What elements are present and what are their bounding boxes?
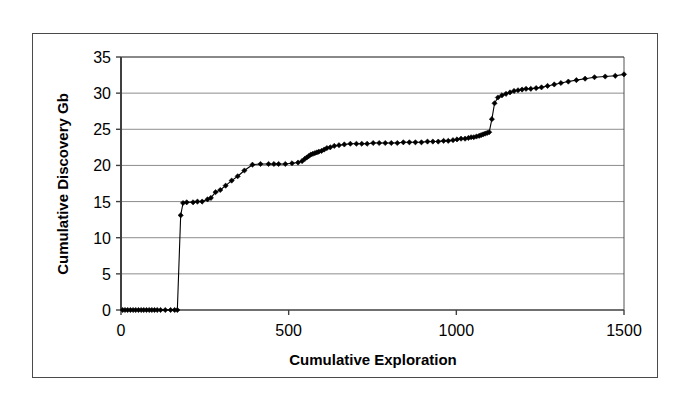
data-point-marker xyxy=(528,86,533,91)
data-point-marker xyxy=(545,83,550,88)
data-point-marker xyxy=(377,140,382,145)
data-point-marker xyxy=(574,78,579,83)
data-point-marker xyxy=(436,139,441,144)
data-point-marker xyxy=(395,140,400,145)
data-point-marker xyxy=(534,85,539,90)
figure-root: 05101520253035 050010001500 Cumulative E… xyxy=(0,0,683,398)
y-axis-tick-labels: 05101520253035 xyxy=(93,49,111,319)
data-point-marker xyxy=(200,199,205,204)
series-line xyxy=(123,74,624,310)
y-tick-label: 35 xyxy=(93,49,111,66)
x-tick-label: 1500 xyxy=(606,322,642,339)
data-point-marker xyxy=(342,142,347,147)
data-point-marker xyxy=(359,141,364,146)
data-point-marker xyxy=(613,73,618,78)
data-point-marker xyxy=(492,101,497,106)
data-point-marker xyxy=(621,72,626,77)
data-point-marker xyxy=(425,139,430,144)
data-point-marker xyxy=(371,140,376,145)
data-point-marker xyxy=(348,141,353,146)
data-point-marker xyxy=(430,139,435,144)
x-axis-tick-labels: 050010001500 xyxy=(117,322,642,339)
x-tick-label: 0 xyxy=(117,322,126,339)
data-point-marker xyxy=(401,140,406,145)
data-point-marker xyxy=(419,140,424,145)
y-tick-label: 15 xyxy=(93,194,111,211)
x-tick-label: 1000 xyxy=(439,322,475,339)
y-tick-label: 5 xyxy=(102,266,111,283)
plot-border xyxy=(121,57,624,310)
data-point-marker xyxy=(603,74,608,79)
data-point-marker xyxy=(539,85,544,90)
gridlines xyxy=(121,57,624,274)
x-tick-label: 500 xyxy=(275,322,302,339)
data-series xyxy=(120,72,627,313)
data-point-marker xyxy=(389,140,394,145)
x-axis-title: Cumulative Exploration xyxy=(289,351,457,368)
data-point-marker xyxy=(365,141,370,146)
y-tick-label: 20 xyxy=(93,157,111,174)
data-point-marker xyxy=(566,79,571,84)
y-axis-title: Cumulative Discovery Gb xyxy=(54,93,71,275)
chart-canvas: 05101520253035 050010001500 Cumulative E… xyxy=(0,0,683,398)
data-point-marker xyxy=(413,140,418,145)
data-point-marker xyxy=(336,143,341,148)
data-point-marker xyxy=(178,213,183,218)
data-point-marker xyxy=(558,80,563,85)
data-point-marker xyxy=(446,138,451,143)
data-point-marker xyxy=(489,117,494,122)
data-point-marker xyxy=(190,200,195,205)
y-tick-label: 30 xyxy=(93,85,111,102)
data-point-marker xyxy=(592,75,597,80)
data-point-marker xyxy=(407,140,412,145)
data-point-marker xyxy=(163,307,168,312)
data-point-marker xyxy=(383,140,388,145)
y-tick-label: 10 xyxy=(93,230,111,247)
data-point-marker xyxy=(552,82,557,87)
y-tick-label: 25 xyxy=(93,121,111,138)
y-tick-label: 0 xyxy=(102,302,111,319)
data-point-marker xyxy=(583,76,588,81)
data-point-marker xyxy=(354,141,359,146)
